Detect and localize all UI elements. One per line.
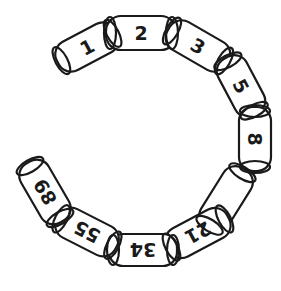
link-number-label: 8: [244, 132, 266, 145]
fibonacci-chain-diagram: 1235821345589: [0, 0, 281, 291]
link-joints: [14, 15, 270, 265]
link-number-label: 2: [134, 22, 147, 44]
link-number-label: 34: [130, 239, 156, 261]
